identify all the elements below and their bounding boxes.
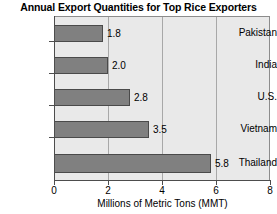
x-tick-label-2: 2 (98, 186, 118, 196)
y-tick-1 (49, 41, 54, 42)
y-axis-line (54, 16, 55, 181)
bar-chart: Annual Export Quantities for Top Rice Ex… (0, 0, 277, 214)
category-label-pakistan: Pakistan (225, 28, 277, 38)
x-tick-label-8: 8 (260, 186, 277, 196)
category-label-us: U.S. (225, 92, 277, 102)
x-axis-title: Millions of Metric Tons (MMT) (54, 199, 271, 209)
category-label-vietnam: Vietnam (225, 124, 277, 134)
category-label-india: India (225, 60, 277, 70)
y-tick-2 (49, 73, 54, 74)
y-tick-4 (49, 137, 54, 138)
bar-value-pakistan: 1.8 (107, 29, 121, 39)
x-tick-label-0: 0 (44, 186, 64, 196)
x-tick-label-6: 6 (206, 186, 226, 196)
bar-india[interactable] (54, 57, 108, 74)
bar-value-india: 2.0 (112, 61, 126, 71)
bar-us[interactable] (54, 89, 130, 106)
bar-value-vietnam: 3.5 (153, 125, 167, 135)
bar-vietnam[interactable] (54, 121, 149, 138)
x-tick-label-4: 4 (152, 186, 172, 196)
bar-value-us: 2.8 (134, 93, 148, 103)
bar-pakistan[interactable] (54, 25, 103, 42)
y-tick-3 (49, 105, 54, 106)
chart-title: Annual Export Quantities for Top Rice Ex… (0, 1, 277, 13)
category-label-thailand: Thailand (225, 158, 277, 168)
bar-thailand[interactable] (54, 154, 211, 173)
